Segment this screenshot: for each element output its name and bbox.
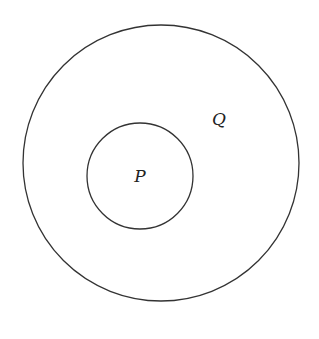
set-p-label: P <box>133 166 146 186</box>
set-q-label: Q <box>212 109 226 129</box>
set-q-circle <box>23 25 299 301</box>
venn-diagram: Q P <box>0 0 319 339</box>
